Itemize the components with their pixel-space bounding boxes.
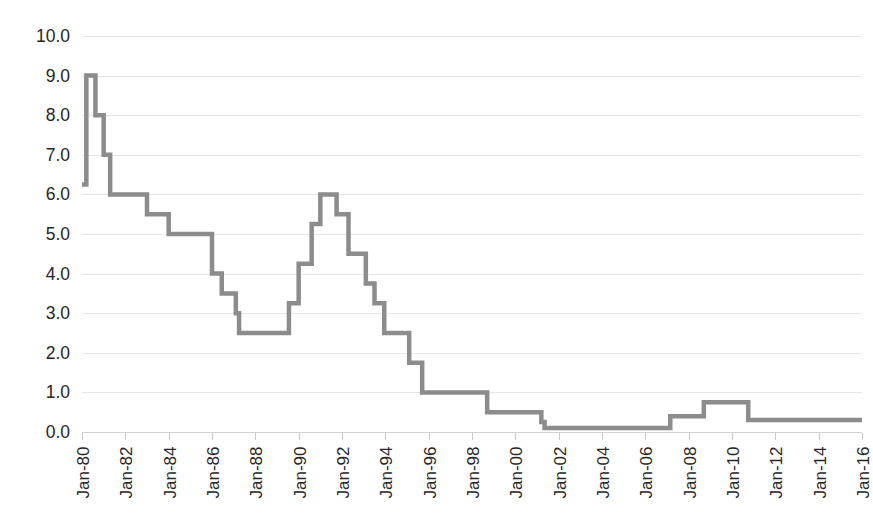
- x-tick-label: Jan-82: [117, 447, 136, 499]
- y-tick-label: 3.0: [46, 303, 71, 323]
- x-tick-label: Jan-00: [507, 447, 526, 499]
- x-tick-label: Jan-86: [204, 447, 223, 499]
- x-tick-label: Jan-92: [334, 447, 353, 499]
- y-tick-label: 8.0: [46, 105, 71, 125]
- x-tick-label: Jan-96: [421, 447, 440, 499]
- x-tick-label: Jan-90: [291, 447, 310, 499]
- x-tick-label: Jan-84: [161, 447, 180, 499]
- line-chart: 0.01.02.03.04.05.06.07.08.09.010.0 Jan-8…: [0, 0, 873, 527]
- y-tick-label: 7.0: [46, 145, 71, 165]
- y-tick-label: 2.0: [46, 343, 71, 363]
- x-tick-label: Jan-12: [767, 447, 786, 499]
- y-tick-label: 9.0: [46, 66, 71, 86]
- x-tick-label: Jan-14: [811, 447, 830, 499]
- x-tick-label: Jan-98: [464, 447, 483, 499]
- x-tick-label: Jan-94: [377, 447, 396, 499]
- x-tick-label: Jan-10: [724, 447, 743, 499]
- x-tick-label: Jan-88: [247, 447, 266, 499]
- x-tick-label: Jan-04: [594, 447, 613, 499]
- y-tick-label: 0.0: [46, 422, 71, 442]
- y-tick-label: 4.0: [46, 264, 71, 284]
- chart-container: 0.01.02.03.04.05.06.07.08.09.010.0 Jan-8…: [0, 0, 873, 527]
- x-tick-label: Jan-80: [74, 447, 93, 499]
- y-tick-label: 6.0: [46, 184, 71, 204]
- x-tick-label: Jan-02: [551, 447, 570, 499]
- y-tick-label: 1.0: [46, 382, 71, 402]
- x-tick-label: Jan-06: [637, 447, 656, 499]
- x-tick-label: Jan-16: [854, 447, 873, 499]
- y-tick-label: 5.0: [46, 224, 71, 244]
- x-tick-label: Jan-08: [681, 447, 700, 499]
- y-tick-label: 10.0: [36, 26, 70, 46]
